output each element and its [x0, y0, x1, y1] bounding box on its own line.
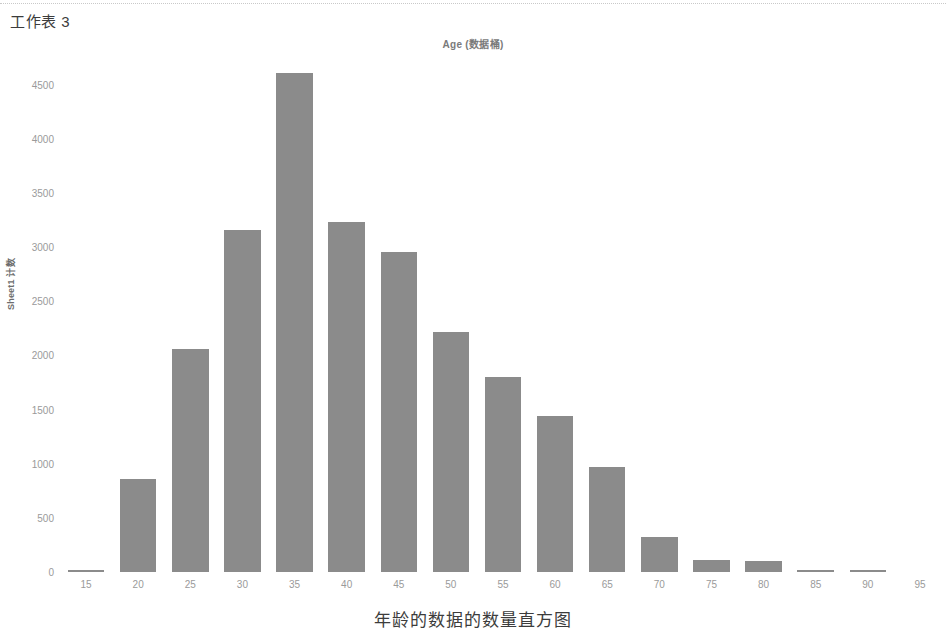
x-axis-tick-label: 40 [341, 579, 352, 590]
y-axis-tick-label: 500 [37, 512, 54, 523]
x-axis-tick-label: 15 [80, 579, 91, 590]
x-axis-tick-label: 65 [602, 579, 613, 590]
bar [745, 561, 781, 572]
y-axis-tick-label: 3500 [32, 187, 54, 198]
bar [172, 349, 208, 572]
y-axis-tick-label: 2000 [32, 350, 54, 361]
plot-area: 050010001500200025003000350040004500 152… [60, 64, 946, 572]
bar [485, 377, 521, 573]
bar [589, 467, 625, 572]
top-divider [0, 3, 946, 4]
sheet-title: 工作表 3 [10, 10, 70, 31]
bar [381, 252, 417, 572]
y-axis-label: Sheet1 计数 [4, 258, 17, 310]
y-axis-tick-label: 2500 [32, 296, 54, 307]
bar [641, 537, 677, 572]
x-axis-tick-label: 70 [654, 579, 665, 590]
bar [276, 73, 312, 572]
y-axis-tick-label: 1000 [32, 458, 54, 469]
bar [328, 222, 364, 572]
chart-title: Age (数据桶) [0, 36, 946, 51]
y-axis-tick-label: 3000 [32, 242, 54, 253]
bar [850, 570, 886, 572]
x-axis-tick-label: 35 [289, 579, 300, 590]
x-axis-tick-label: 45 [393, 579, 404, 590]
y-axis-tick-label: 4500 [32, 79, 54, 90]
y-axis-tick-label: 0 [48, 567, 54, 578]
bar [224, 230, 260, 572]
bar [120, 479, 156, 572]
bar [68, 570, 104, 572]
x-axis-tick-label: 85 [810, 579, 821, 590]
x-axis-tick-label: 50 [445, 579, 456, 590]
y-axis-tick-label: 4000 [32, 133, 54, 144]
x-axis-tick-label: 60 [550, 579, 561, 590]
x-axis-tick-label: 90 [862, 579, 873, 590]
bar [537, 416, 573, 572]
x-axis-tick-label: 95 [914, 579, 925, 590]
x-axis-tick-label: 75 [706, 579, 717, 590]
bar [797, 570, 833, 572]
bottom-caption: 年龄的数据的数量直方图 [0, 606, 946, 631]
bar [693, 560, 729, 572]
x-axis-tick-label: 80 [758, 579, 769, 590]
y-axis-tick-label: 1500 [32, 404, 54, 415]
x-axis-tick-label: 25 [185, 579, 196, 590]
x-axis-tick-label: 30 [237, 579, 248, 590]
x-axis-tick-label: 20 [133, 579, 144, 590]
x-axis-tick-label: 55 [497, 579, 508, 590]
bar [433, 332, 469, 572]
